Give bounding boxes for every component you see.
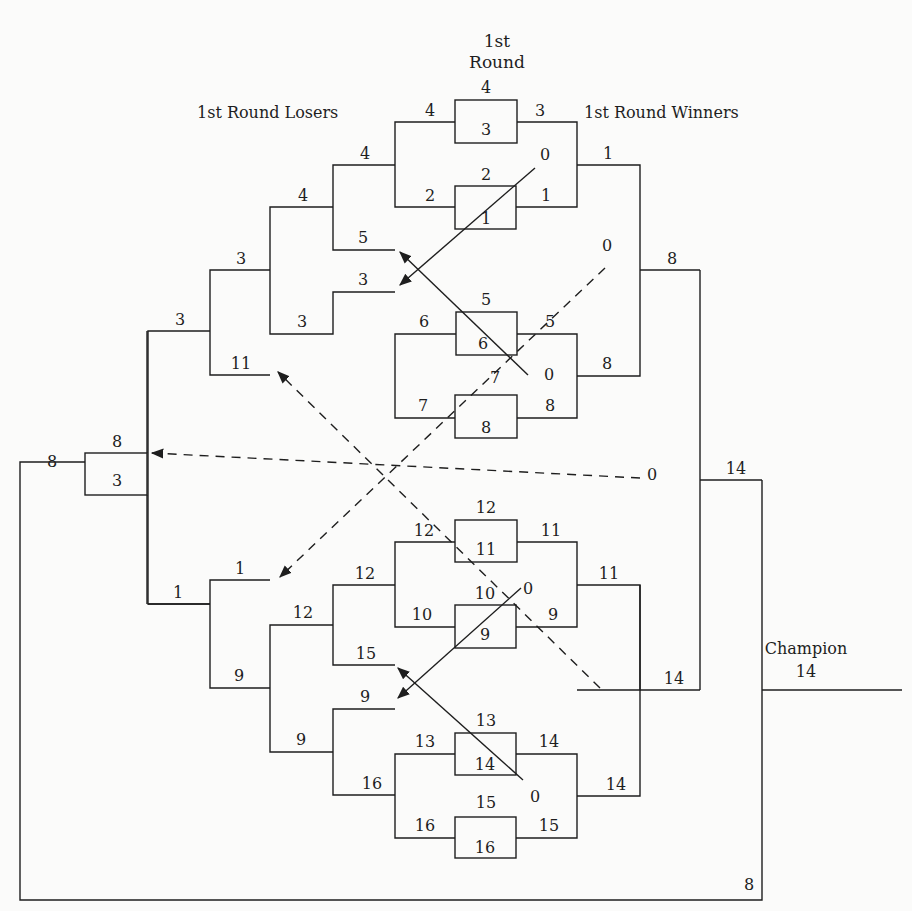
match3-bottom: 6 — [478, 336, 488, 352]
match7-bottom: 14 — [475, 757, 495, 773]
first-round-heading-line1: 1st — [469, 31, 525, 52]
losers-upper-r2-a: 4 — [298, 188, 308, 204]
losers-lower-r1-b: 9 — [360, 689, 370, 705]
match2-right: 1 — [541, 188, 551, 204]
losers-final-out: 8 — [47, 454, 57, 470]
match4-right: 8 — [545, 398, 555, 414]
match7-right: 14 — [539, 734, 559, 750]
match1-top: 4 — [481, 80, 491, 96]
bracket-diagram: 1st Round 1st Round Losers 1st Round Win… — [0, 0, 912, 911]
losers-lower-r2in-a: 15 — [356, 646, 376, 662]
winners-r2-4: 14 — [606, 777, 626, 793]
zero-marker-1: 0 — [540, 147, 550, 163]
losers-lower-r1-c: 16 — [362, 776, 382, 792]
zero-marker-3: 0 — [544, 367, 554, 383]
match3-right: 5 — [545, 314, 555, 330]
match6-top: 10 — [475, 586, 495, 602]
losers-upper-r4: 3 — [175, 312, 185, 328]
match2-top: 2 — [481, 167, 491, 183]
winners-r2-1: 1 — [603, 146, 613, 162]
losers-lower-r3-in: 1 — [235, 561, 245, 577]
losers-heading: 1st Round Losers — [197, 105, 338, 121]
zero-marker-2: 0 — [602, 238, 612, 254]
match1-left: 4 — [425, 103, 435, 119]
match5-bottom: 11 — [476, 542, 496, 558]
match5-right: 11 — [541, 523, 561, 539]
winners-semi-2: 14 — [664, 671, 684, 687]
losers-upper-r3-in: 11 — [231, 356, 251, 372]
match5-top: 12 — [476, 500, 496, 516]
losers-upper-r2-b: 3 — [297, 314, 307, 330]
losers-lower-r3: 9 — [234, 668, 244, 684]
match2-left: 2 — [425, 188, 435, 204]
winners-r2-2: 8 — [602, 356, 612, 372]
match4-bottom: 8 — [481, 420, 491, 436]
zero-marker-6: 0 — [530, 789, 540, 805]
champion-value: 14 — [796, 664, 816, 680]
match7-top: 13 — [476, 713, 496, 729]
winners-final: 14 — [726, 461, 746, 477]
match6-right: 9 — [548, 607, 558, 623]
match4-top: 7 — [490, 370, 500, 386]
match8-bottom: 16 — [475, 840, 495, 856]
losers-lower-r2-a: 12 — [293, 605, 313, 621]
first-round-heading: 1st Round — [469, 31, 525, 74]
zero-marker-4: 0 — [647, 467, 657, 483]
match6-bottom: 9 — [480, 627, 490, 643]
match3-top: 5 — [481, 292, 491, 308]
losers-upper-r3: 3 — [236, 251, 246, 267]
match8-left: 16 — [415, 818, 435, 834]
zero-marker-5: 0 — [523, 581, 533, 597]
losers-final-bottom: 3 — [112, 473, 122, 489]
losers-upper-r1-a: 4 — [360, 146, 370, 162]
losers-lower-r4: 1 — [173, 585, 183, 601]
champion-label: Champion — [765, 641, 848, 657]
match8-top: 15 — [476, 795, 496, 811]
dashed-lines — [152, 268, 640, 688]
losers-lower-r2-b: 9 — [296, 732, 306, 748]
winners-semi-1: 8 — [667, 251, 677, 267]
losers-upper-r2in-a: 5 — [358, 230, 368, 246]
match2-bottom: 1 — [481, 211, 491, 227]
solid-lines — [20, 100, 902, 900]
losers-lower-r1-a: 12 — [355, 566, 375, 582]
match5-left: 12 — [414, 523, 434, 539]
match7-left: 13 — [415, 734, 435, 750]
match1-bottom: 3 — [481, 122, 491, 138]
losers-final-top: 8 — [112, 434, 122, 450]
match3-left: 6 — [419, 314, 429, 330]
grand-final-in: 8 — [744, 877, 754, 893]
losers-upper-r2in-b: 3 — [358, 272, 368, 288]
match6-left: 10 — [412, 607, 432, 623]
match8-right: 15 — [539, 818, 559, 834]
match1-right: 3 — [535, 103, 545, 119]
winners-heading: 1st Round Winners — [584, 105, 739, 121]
first-round-heading-line2: Round — [469, 52, 525, 73]
match4-left: 7 — [418, 398, 428, 414]
winners-r2-3: 11 — [599, 566, 619, 582]
bracket-lines — [0, 0, 912, 911]
